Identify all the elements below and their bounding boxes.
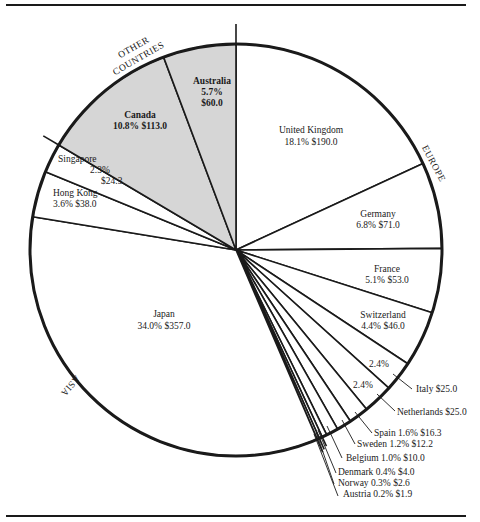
slice-label-hong-kong: Hong Kong (53, 188, 98, 198)
slice-label-japan: Japan (153, 309, 175, 319)
pie-chart: United Kingdom18.1% $190.0Germany6.8% $7… (0, 0, 480, 522)
slice-label-australia: Australia (193, 76, 231, 86)
slice-label-switzerland: Switzerland (360, 310, 406, 320)
slice-pct-netherlands: 2.4% (353, 380, 373, 390)
leader-norway (316, 432, 334, 484)
leader-spain (355, 412, 372, 433)
slice-pct-singapore: 2.3% (90, 165, 110, 175)
outside-label-netherlands: Netherlands $25.0 (397, 407, 467, 417)
outside-label-spain: Spain 1.6% $16.3 (374, 428, 442, 438)
slice-value-france: 5.1% $53.0 (365, 275, 409, 285)
slice-value-canada: 10.8% $113.0 (113, 121, 167, 131)
divider-asia-other (43, 136, 60, 146)
slice-label-singapore: Singapore (58, 154, 97, 164)
slice-value-switzerland: 4.4% $46.0 (361, 321, 405, 331)
slice-value-germany: 6.8% $71.0 (356, 220, 400, 230)
outside-label-sweden: Sweden 1.2% $12.2 (357, 439, 433, 449)
slice-label-france: France (374, 264, 400, 274)
outside-label-belgium: Belgium 1.0% $10.0 (346, 453, 425, 463)
slice-label-germany: Germany (360, 209, 396, 219)
outside-label-denmark: Denmark 0.4% $4.0 (338, 467, 415, 477)
region-label-asia: ASIA (59, 373, 82, 398)
outside-label-austria: Austria 0.2% $1.9 (343, 489, 412, 499)
slice-pct-australia: 5.7% (201, 87, 222, 97)
slice-value-singapore: $24.3 (101, 176, 123, 186)
outside-label-norway: Norway 0.3% $2.6 (338, 478, 410, 488)
slice-value-japan: 34.0% $357.0 (137, 321, 190, 331)
slice-value-hong-kong: 3.6% $38.0 (53, 199, 97, 209)
slice-value-australia: $60.0 (201, 98, 223, 108)
pie-slices (30, 44, 442, 456)
slice-label-united-kingdom: United Kingdom (279, 125, 344, 135)
leader-netherlands (377, 394, 395, 411)
outside-label-italy: Italy $25.0 (416, 384, 457, 394)
slice-label-canada: Canada (124, 110, 156, 120)
slice-value-united-kingdom: 18.1% $190.0 (284, 137, 337, 147)
slice-pct-italy: 2.4% (369, 359, 389, 369)
